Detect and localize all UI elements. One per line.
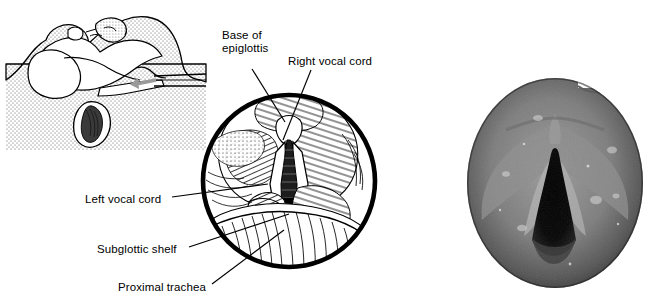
figure-root: Base of epiglottis Right vocal cord Left… xyxy=(0,0,648,304)
endoscopic-photograph xyxy=(466,78,644,290)
photo-svg xyxy=(466,78,644,290)
label-left-vocal-cord: Left vocal cord xyxy=(85,193,161,206)
label-right-vocal-cord: Right vocal cord xyxy=(288,55,372,68)
label-proximal-trachea: Proximal trachea xyxy=(118,281,206,294)
sagittal-head-neck-diagram xyxy=(4,6,208,152)
label-subglottic-shelf: Subglottic shelf xyxy=(97,243,177,256)
laryngoscopic-view-illustration xyxy=(198,80,380,282)
sagittal-svg xyxy=(4,6,208,152)
laryngoscopic-svg xyxy=(198,80,380,282)
label-base-of-epiglottis: Base of epiglottis xyxy=(222,29,268,54)
